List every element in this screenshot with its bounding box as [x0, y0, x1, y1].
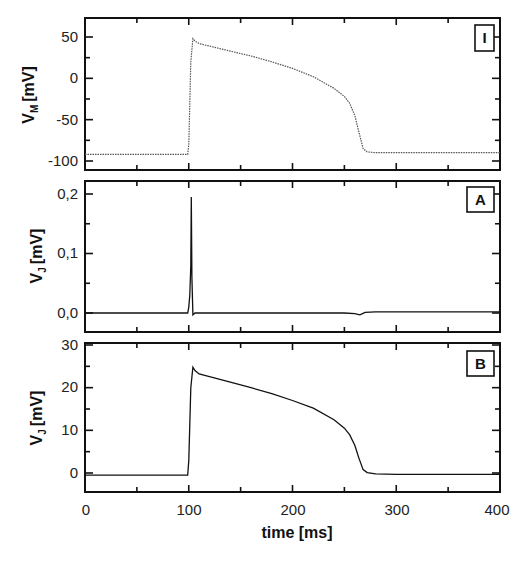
- y-tick-label: -100: [48, 152, 78, 169]
- x-axis-label: time [ms]: [261, 524, 332, 541]
- panel-tag-label: A: [475, 191, 486, 208]
- y-tick-label: 0: [70, 464, 78, 481]
- axis-ticks: [85, 181, 500, 332]
- panel-tag-label: I: [482, 29, 486, 46]
- y-tick-label: 20: [61, 378, 78, 395]
- y-tick-label: 0,2: [57, 185, 78, 202]
- y-tick-label: 0,1: [57, 244, 78, 261]
- axis-ticks: [85, 343, 500, 492]
- y-axis-label-unit: [mV]: [28, 229, 45, 265]
- y-tick-label: -50: [56, 111, 78, 128]
- y-axis-label-unit: [mV]: [28, 391, 45, 427]
- x-tick-label: 400: [484, 501, 509, 518]
- plot-frame: [85, 18, 500, 170]
- y-axis-label: VM[mV]: [20, 66, 40, 124]
- y-axis-label: VJ[mV]: [28, 229, 48, 284]
- plot-frame: [85, 343, 500, 492]
- y-tick-label: 0,0: [57, 304, 78, 321]
- svg-text:VM[mV]: VM[mV]: [20, 66, 40, 124]
- y-axis-label-main: V: [28, 272, 45, 283]
- figure: 50 0 -50 -100 VM[mV] I 0,2 0,1 0,0 VJ[mV…: [0, 0, 528, 566]
- y-axis-label-main: V: [28, 434, 45, 445]
- plot-frame: [85, 181, 500, 332]
- svg-text:VJ[mV]: VJ[mV]: [28, 229, 48, 284]
- y-axis-label-main: V: [20, 113, 37, 124]
- x-tick-label: 100: [176, 501, 201, 518]
- y-tick-label: 0: [70, 69, 78, 86]
- x-tick-label: 300: [384, 501, 409, 518]
- y-tick-label: 50: [61, 28, 78, 45]
- panel-b: 30 20 10 0 VJ[mV] B: [28, 336, 500, 492]
- x-tick-label: 0: [82, 501, 90, 518]
- svg-text:VJ[mV]: VJ[mV]: [28, 391, 48, 446]
- x-tick-label: 200: [280, 501, 305, 518]
- x-axis: 0 100 200 300 400 time [ms]: [82, 501, 510, 541]
- axis-ticks: [85, 18, 500, 170]
- y-tick-label: 30: [61, 336, 78, 353]
- y-axis-label-sub: J: [37, 429, 48, 435]
- y-axis-label: VJ[mV]: [28, 391, 48, 446]
- panel-a: 0,2 0,1 0,0 VJ[mV] A: [28, 181, 500, 332]
- y-axis-label-sub: J: [37, 267, 48, 273]
- data-line: [85, 197, 500, 315]
- data-line: [85, 39, 500, 155]
- y-axis-label-unit: [mV]: [20, 66, 37, 102]
- data-line: [85, 367, 500, 475]
- y-tick-label: 10: [61, 421, 78, 438]
- panel-i: 50 0 -50 -100 VM[mV] I: [20, 18, 500, 170]
- y-axis-label-sub: M: [29, 105, 40, 113]
- panel-tag-label: B: [475, 355, 486, 372]
